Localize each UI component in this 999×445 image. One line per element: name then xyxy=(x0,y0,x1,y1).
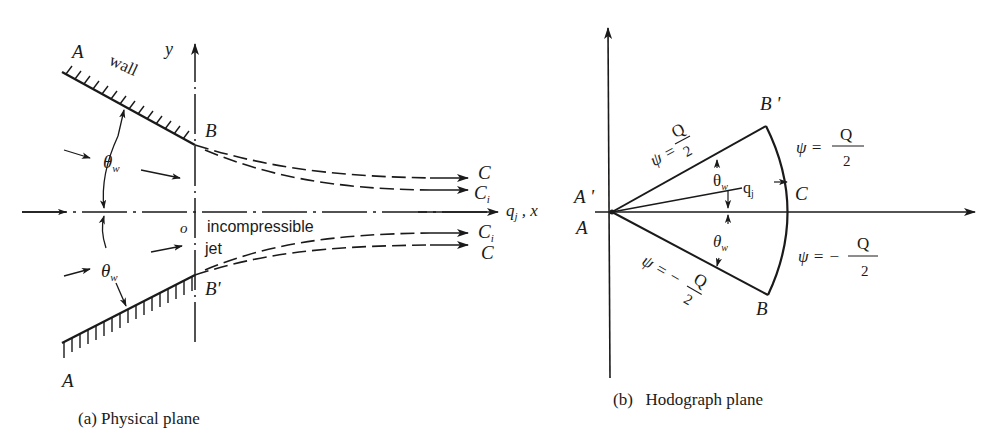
label-theta-w-top: θw xyxy=(103,151,120,174)
hodograph-upper-radius xyxy=(612,126,766,212)
label-y-axis: y xyxy=(163,39,173,59)
svg-text:ψ = −: ψ = − xyxy=(798,247,840,266)
label-qj-x: qj , x xyxy=(506,201,538,222)
label-Ci-bottom: Ci xyxy=(478,221,494,244)
svg-text:Q: Q xyxy=(857,234,869,253)
upper-free-streamline-inner xyxy=(205,150,430,190)
inflow-arrow xyxy=(151,246,182,252)
svg-text:Q: Q xyxy=(691,269,711,292)
jet-flow-figure: A wall y B B' A o incompressible jet θw … xyxy=(0,0,999,445)
lower-free-streamline-inner xyxy=(205,233,430,270)
inflow-arrow xyxy=(141,170,180,178)
svg-text:2: 2 xyxy=(843,153,851,169)
svg-text:Q: Q xyxy=(840,125,852,144)
psi-lower-radius-label: ψ = − Q 2 xyxy=(633,242,712,311)
svg-text:ψ =: ψ = xyxy=(647,141,679,170)
label-jet: jet xyxy=(204,240,222,257)
svg-text:2: 2 xyxy=(681,291,695,309)
lower-wall-hatching xyxy=(64,277,192,358)
label-origin: o xyxy=(180,220,188,236)
inflow-arrow xyxy=(64,150,90,158)
label-A-top: A xyxy=(70,41,84,62)
label-A-prime: A ' xyxy=(572,186,595,207)
psi-upper-radius-label: ψ = Q 2 xyxy=(640,118,699,175)
label-theta-w-bottom: θw xyxy=(101,260,118,283)
psi-arc-upper-label: ψ = Q 2 xyxy=(796,125,864,169)
label-C-top: C xyxy=(478,162,491,183)
psi-arc-lower-label: ψ = − Q 2 xyxy=(798,234,878,279)
hodograph-lower-radius xyxy=(612,212,768,295)
label-qj: qj xyxy=(743,179,754,199)
svg-text:2: 2 xyxy=(861,263,869,279)
label-A-bottom: A xyxy=(60,370,74,391)
label-B-prime: B ' xyxy=(760,93,781,114)
angle-arc-upper-to-wall xyxy=(118,110,124,136)
label-B: B xyxy=(205,120,217,141)
angle-arc-lower-to-wall xyxy=(116,283,126,306)
hodograph-vertical-axis xyxy=(608,28,610,378)
label-C-bottom: C xyxy=(481,242,494,263)
svg-text:2: 2 xyxy=(680,142,694,160)
hodograph-plane-panel xyxy=(595,28,975,378)
physical-plane-panel xyxy=(22,44,498,358)
label-A: A xyxy=(574,217,588,238)
caption-hodograph-plane: (b) Hodograph plane xyxy=(613,390,763,409)
label-theta-w-bottom: θw xyxy=(713,232,728,253)
label-theta-w-top: θw xyxy=(713,171,728,192)
angle-tick-lower xyxy=(717,258,719,266)
inflow-arrow xyxy=(64,269,90,276)
label-Ci-top: Ci xyxy=(474,182,490,205)
caption-physical-plane: (a) Physical plane xyxy=(78,409,200,428)
hodograph-plane-labels: A ' A B ' B C qj θw θw ψ = Q 2 ψ = − Q 2… xyxy=(572,93,878,409)
svg-text:ψ =: ψ = xyxy=(796,138,822,157)
upper-wall xyxy=(62,72,195,145)
svg-text:ψ = −: ψ = − xyxy=(639,251,685,288)
upper-free-streamline-outer xyxy=(195,145,430,178)
label-B-prime: B' xyxy=(205,278,222,299)
angle-arc-lower xyxy=(102,216,106,248)
label-B: B xyxy=(756,298,768,319)
label-wall: wall xyxy=(106,50,141,80)
hodograph-arc xyxy=(766,126,788,295)
label-incompressible: incompressible xyxy=(207,218,314,235)
label-C: C xyxy=(795,183,808,204)
